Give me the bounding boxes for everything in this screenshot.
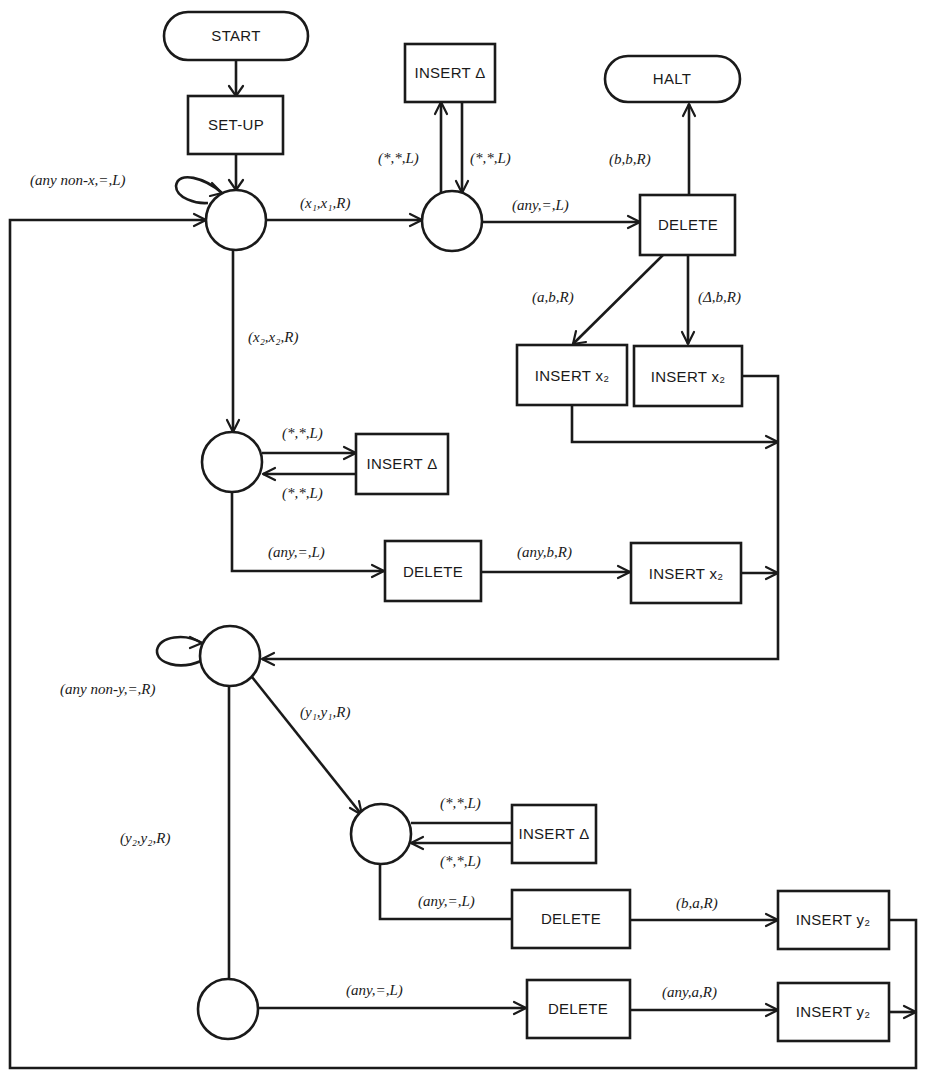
label-delete-insx2c: (any,b,R) <box>517 544 572 561</box>
label-s1-s2: (x₁,x₁,R) <box>300 195 350 212</box>
label-delete-halt: (b,b,R) <box>609 151 651 168</box>
delete-bottom-box: DELETE <box>527 980 630 1038</box>
start-terminal: START <box>164 12 308 60</box>
turing-machine-flowchart: START HALT SET-UP INSERT Δ DELETE INSERT… <box>0 0 938 1081</box>
state-2 <box>422 191 482 251</box>
state-3 <box>202 432 262 492</box>
label-s5-delete: (any,=,L) <box>418 893 475 910</box>
setup-box: SET-UP <box>188 96 283 154</box>
label-s2-insdelta: (*,*,L) <box>378 150 419 167</box>
insert-delta-mid-box: INSERT Δ <box>356 434 448 494</box>
label-s4-s6: (y₂,y₂,R) <box>120 830 170 847</box>
label-delete-insy2a: (b,a,R) <box>676 895 718 912</box>
delete-top-label: DELETE <box>658 216 718 233</box>
delete-top-box: DELETE <box>640 195 735 255</box>
insert-delta-low-label: INSERT Δ <box>518 825 589 842</box>
delete-bottom-label: DELETE <box>548 1000 608 1017</box>
start-label: START <box>211 27 260 44</box>
delete-mid-box: DELETE <box>385 541 481 601</box>
state-4 <box>200 626 260 686</box>
label-delete-insx2b: (Δ,b,R) <box>698 289 741 306</box>
insert-y2-b-label: INSERT y₂ <box>796 1003 871 1020</box>
state-1 <box>206 190 266 250</box>
state-5 <box>351 804 411 864</box>
label-insdelta-s3: (*,*,L) <box>282 485 323 502</box>
insert-delta-low-box: INSERT Δ <box>512 805 596 863</box>
delete-low-box: DELETE <box>512 890 630 948</box>
insert-delta-mid-label: INSERT Δ <box>366 455 437 472</box>
label-s6-delete: (any,=,L) <box>346 982 403 999</box>
insert-delta-top-label: INSERT Δ <box>414 64 485 81</box>
halt-label: HALT <box>653 70 691 87</box>
label-s3-delete: (any,=,L) <box>268 544 325 561</box>
label-insdelta-s2: (*,*,L) <box>470 150 511 167</box>
insert-x2-b-label: INSERT x₂ <box>651 368 726 385</box>
label-s4-s5: (y₁,y₁,R) <box>300 704 350 721</box>
halt-terminal: HALT <box>605 56 740 102</box>
insert-y2-a-box: INSERT y₂ <box>778 891 889 949</box>
state-6 <box>198 979 258 1039</box>
label-s2-delete: (any,=,L) <box>512 197 569 214</box>
insert-delta-top-box: INSERT Δ <box>405 44 495 102</box>
label-s5-insdelta: (*,*,L) <box>440 795 481 812</box>
insert-y2-a-label: INSERT y₂ <box>796 911 871 928</box>
label-delete-insy2b: (any,a,R) <box>662 984 717 1001</box>
label-loop-state4: (any non-y,=,R) <box>60 681 156 698</box>
label-loop-state1: (any non-x,=,L) <box>30 172 126 189</box>
insert-x2-a-box: INSERT x₂ <box>517 345 627 405</box>
label-s3-insdelta: (*,*,L) <box>282 425 323 442</box>
insert-x2-a-label: INSERT x₂ <box>535 367 610 384</box>
label-s1-s3: (x₂,x₂,R) <box>248 329 298 346</box>
delete-low-label: DELETE <box>541 910 601 927</box>
insert-y2-b-box: INSERT y₂ <box>778 983 889 1041</box>
label-insdelta-s5: (*,*,L) <box>440 853 481 870</box>
label-delete-insx2a: (a,b,R) <box>532 289 574 306</box>
insert-x2-c-box: INSERT x₂ <box>631 543 741 603</box>
insert-x2-b-box: INSERT x₂ <box>634 346 742 406</box>
insert-x2-c-label: INSERT x₂ <box>649 565 724 582</box>
setup-label: SET-UP <box>208 116 264 133</box>
delete-mid-label: DELETE <box>403 563 463 580</box>
